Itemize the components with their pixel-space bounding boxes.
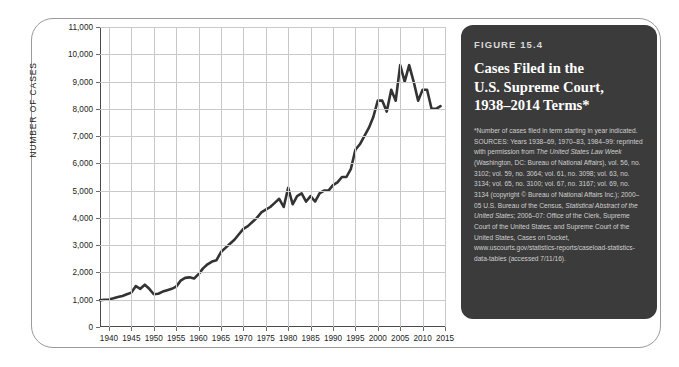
y-axis-tick [96,300,100,301]
y-axis-label: 8,000 [73,104,94,113]
sources-italic-1: The United States Law Week [536,148,621,155]
figure-title-line-1: Cases Filed in the [474,59,644,78]
y-axis-tick [96,54,100,55]
x-axis-label: 1970 [234,334,252,343]
figure-sources: SOURCES: Years 1938–69, 1970–83, 1984–99… [474,137,644,265]
gridline-horizontal [100,163,445,164]
x-axis-label: 1960 [189,334,207,343]
gridline-horizontal [100,218,445,219]
x-axis-tick [355,327,356,331]
sources-part-3: ; 2006–07: Office of the Clerk, Supreme … [474,212,635,262]
gridline-vertical [355,27,356,327]
x-axis-tick [266,327,267,331]
plot-region: 01,0002,0003,0004,0005,0006,0007,0008,00… [100,27,445,327]
y-axis-label: 0 [88,323,93,332]
y-axis-tick [96,245,100,246]
gridline-horizontal [100,109,445,110]
y-axis-label: 6,000 [73,159,94,168]
figure-root: NUMBER OF CASES 01,0002,0003,0004,0005,0… [0,0,679,367]
gridline-horizontal [100,54,445,55]
gridline-vertical [311,27,312,327]
x-axis-tick [378,327,379,331]
x-axis-label: 2015 [436,334,454,343]
x-axis-tick [423,327,424,331]
gridline-vertical [266,27,267,327]
x-axis-tick [176,327,177,331]
gridline-vertical [154,27,155,327]
plot-inner: 01,0002,0003,0004,0005,0006,0007,0008,00… [100,27,445,327]
gridline-horizontal [100,300,445,301]
chart-area: NUMBER OF CASES 01,0002,0003,0004,0005,0… [0,0,470,367]
figure-title-line-3: 1938–2014 Terms* [474,96,644,115]
gridline-vertical [131,27,132,327]
y-axis-tick [96,163,100,164]
y-axis-title: NUMBER OF CASES [28,30,38,190]
y-axis-label: 3,000 [73,241,94,250]
figure-notes: *Number of cases filed in term starting … [474,126,644,265]
gridline-horizontal [100,272,445,273]
x-axis-tick [154,327,155,331]
y-axis-label: 11,000 [69,23,93,32]
gridline-vertical [445,27,446,327]
x-axis-label: 1980 [279,334,297,343]
gridline-horizontal [100,82,445,83]
x-axis-label: 1985 [301,334,319,343]
x-axis-label: 2010 [413,334,431,343]
y-axis-tick [96,136,100,137]
y-axis-label: 4,000 [73,213,94,222]
cases-filed-line-series [100,27,445,327]
gridline-vertical [221,27,222,327]
y-axis-tick [96,272,100,273]
x-axis-label: 2000 [369,334,387,343]
gridline-vertical [199,27,200,327]
gridline-vertical [333,27,334,327]
gridline-vertical [109,27,110,327]
y-axis-tick [96,109,100,110]
y-axis-tick [96,191,100,192]
figure-caption-panel: FIGURE 15.4 Cases Filed in the U.S. Supr… [461,25,657,319]
gridline-horizontal [100,136,445,137]
x-axis-tick [445,327,446,331]
y-axis-tick [96,218,100,219]
x-axis-label: 1950 [145,334,163,343]
x-axis-label: 1995 [346,334,364,343]
y-axis-label: 2,000 [73,268,94,277]
x-axis-label: 2005 [391,334,409,343]
y-axis-tick [96,82,100,83]
x-axis-tick [311,327,312,331]
figure-title: Cases Filed in the U.S. Supreme Court, 1… [474,59,644,115]
x-axis-tick [199,327,200,331]
x-axis-label: 1955 [167,334,185,343]
x-axis-tick [400,327,401,331]
y-axis-label: 1,000 [73,295,94,304]
x-axis-tick [221,327,222,331]
gridline-vertical [378,27,379,327]
x-axis-tick [333,327,334,331]
gridline-horizontal [100,245,445,246]
y-axis-label: 9,000 [73,77,94,86]
x-axis-label: 1990 [324,334,342,343]
gridline-vertical [243,27,244,327]
x-axis-tick [131,327,132,331]
gridline-horizontal [100,27,445,28]
gridline-vertical [423,27,424,327]
y-axis-tick [96,327,100,328]
figure-number-label: FIGURE 15.4 [474,39,644,50]
figure-footnote: *Number of cases filed in term starting … [474,126,644,137]
x-axis-label: 1945 [122,334,140,343]
y-axis-tick [96,27,100,28]
figure-title-line-2: U.S. Supreme Court, [474,78,644,97]
x-axis-tick [288,327,289,331]
gridline-vertical [288,27,289,327]
y-axis-label: 10,000 [68,50,93,59]
gridline-vertical [176,27,177,327]
x-axis-label: 1965 [212,334,230,343]
x-axis-tick [243,327,244,331]
y-axis-label: 5,000 [73,186,94,195]
gridline-horizontal [100,191,445,192]
gridline-vertical [400,27,401,327]
x-axis-tick [109,327,110,331]
y-axis-label: 7,000 [73,132,94,141]
x-axis-label: 1940 [100,334,118,343]
x-axis-label: 1975 [257,334,275,343]
